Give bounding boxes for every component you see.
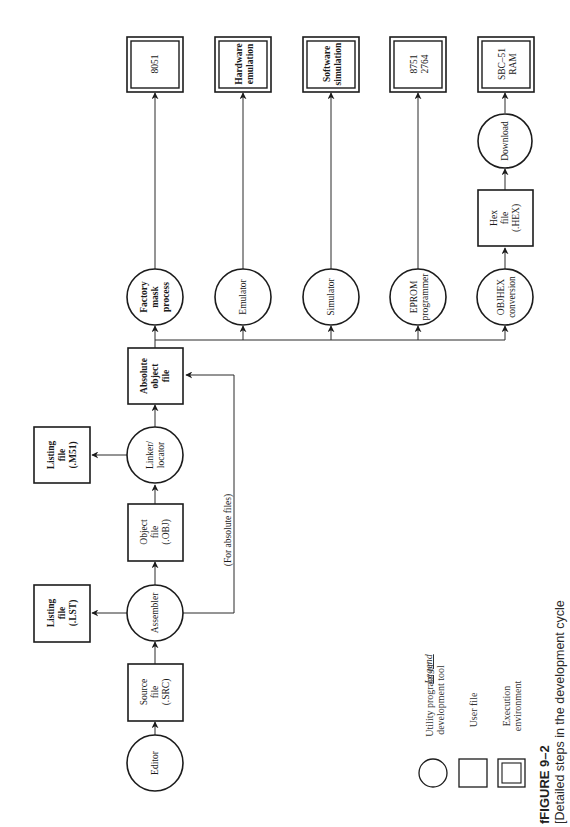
node-env-8751-label-1: 8751 (409, 54, 419, 73)
figure-caption-body: Detailed steps in the development cycle (553, 600, 567, 820)
node-objhex-conversion: OBJHEX conversion (477, 269, 533, 325)
node-env-sbc51-ram: SBC–51 RAM (478, 37, 534, 92)
legend-square-label: User file (468, 692, 479, 727)
node-absolute-object-file: Absolute object file (128, 348, 183, 404)
legend-circle-label-2: development tool (435, 665, 446, 735)
node-source-file-label-1: Source (139, 679, 149, 705)
absolute-files-edge-label: (For absolute files) (223, 494, 234, 566)
legend-circle-label-1: Utility program or (424, 663, 435, 737)
node-hex-label-2: file (500, 212, 510, 225)
node-listing-lst-label-1: Listing (46, 598, 56, 627)
node-env-hardware-label-2: emulation (245, 43, 255, 84)
node-source-file: Source file (.SRC) (128, 664, 183, 721)
figure-caption-text: [Detailed steps in the development cycle (553, 600, 567, 824)
node-hex-label-1: Hex (489, 210, 499, 226)
node-objhex-label-1: OBJHEX (496, 279, 506, 316)
node-eprom-programmer: EPROM programmer (390, 269, 446, 325)
node-factory-label-1: Factory (139, 281, 149, 313)
node-hex-file: Hex file (.HEX) (478, 190, 533, 246)
node-env-8751-2764: 8751 2764 (390, 37, 446, 92)
node-absolute-label-2: object (150, 363, 160, 389)
node-factory-label-3: process (161, 282, 171, 312)
node-object-file: Object file (.OBJ) (128, 504, 183, 561)
node-env-8751-label-2: 2764 (420, 54, 430, 73)
legend: Legend Utility program or development to… (419, 653, 525, 787)
node-objhex-label-2: conversion (507, 276, 517, 318)
figure-number-text: FIGURE 9–2 (537, 745, 552, 819)
node-hex-label-3: (.HEX) (511, 204, 522, 232)
node-eprom-label-2: programmer (420, 273, 430, 321)
node-factory-mask: Factory mask process (127, 269, 183, 325)
node-env-sbc-label-1: SBC–51 (497, 48, 507, 80)
node-assembler-label: Assembler (150, 592, 160, 633)
node-listing-m51-label-3: (.M51) (68, 441, 79, 468)
legend-square-icon (459, 759, 487, 787)
node-assembler: Assembler (127, 585, 183, 641)
node-eprom-label-1: EPROM (409, 280, 419, 313)
node-emulator-label: Emulator (238, 278, 248, 314)
node-source-file-label-2: file (150, 686, 160, 699)
node-env-hardware-label-1: Hardware (234, 43, 244, 85)
node-object-file-label-3: (.OBJ) (161, 519, 172, 545)
node-listing-lst-label-2: file (57, 607, 67, 620)
node-linker-locator: Linker/ locator (127, 427, 183, 483)
node-env-software-label-1: Software (322, 46, 332, 82)
node-emulator: Emulator (215, 269, 271, 325)
node-absolute-label-1: Absolute (139, 358, 149, 394)
node-env-hardware-emulation: Hardware emulation (215, 37, 271, 92)
node-factory-label-2: mask (150, 285, 160, 307)
node-env-8051-label: 8051 (150, 54, 160, 73)
node-object-file-label-2: file (150, 526, 160, 539)
node-env-software-simulation: Software simulation (303, 37, 359, 92)
node-simulator: Simulator (303, 269, 359, 325)
legend-double-square-label-1: Execution (501, 686, 512, 727)
node-linker-label-2: locator (156, 441, 166, 468)
node-download-label: Download (500, 121, 510, 161)
node-linker-label-1: Linker/ (145, 441, 155, 469)
figure-caption: fFIGURE 9–2 [Detailed steps in the devel… (537, 600, 567, 824)
node-source-file-label-3: (.SRC) (161, 679, 172, 706)
node-absolute-label-3: file (161, 370, 171, 383)
node-editor: Editor (127, 735, 183, 791)
node-listing-m51: Listing file (.M51) (34, 427, 90, 483)
node-listing-m51-label-2: file (57, 449, 67, 462)
development-cycle-diagram: (For absolute files) Editor Source file … (0, 0, 570, 827)
node-listing-lst-label-3: (.LST) (68, 600, 79, 627)
node-listing-lst: Listing file (.LST) (34, 585, 90, 642)
legend-circle-icon (419, 759, 447, 787)
node-listing-m51-label-1: Listing (46, 440, 56, 469)
figure-number: fFIGURE 9–2 (537, 745, 552, 824)
node-simulator-label: Simulator (326, 277, 336, 315)
node-object-file-label-1: Object (139, 519, 149, 545)
legend-double-square-label-2: environment (512, 681, 523, 732)
node-editor-label: Editor (150, 750, 160, 775)
node-env-8051: 8051 (127, 37, 183, 92)
node-env-sbc-label-2: RAM (508, 53, 518, 75)
node-download: Download (478, 114, 532, 168)
node-env-software-label-2: simulation (333, 42, 343, 85)
